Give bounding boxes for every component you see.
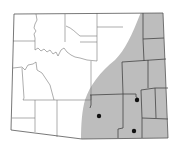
marker-dot-1 [135, 98, 139, 102]
wyoming-map [0, 0, 180, 148]
map-container: Wyoming county map [0, 0, 180, 148]
marker-dot-2 [97, 114, 101, 118]
marker-dot-3 [132, 129, 136, 133]
